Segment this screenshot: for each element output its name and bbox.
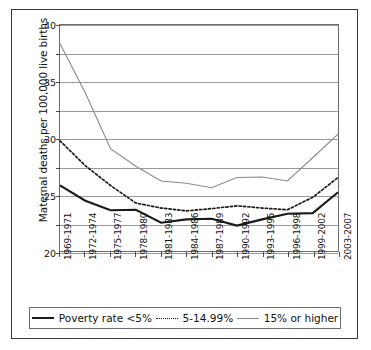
x-tick-mark xyxy=(59,252,60,257)
y-tick-label: 20 xyxy=(44,248,56,259)
legend-item-poverty-5-to-14: 5-14.99% xyxy=(156,312,234,324)
x-tick-mark xyxy=(135,252,136,257)
x-tick-label: 1975-1977 xyxy=(113,213,123,260)
legend-swatch-dotted-icon xyxy=(156,318,178,319)
x-tick-mark xyxy=(84,252,85,257)
x-tick-mark xyxy=(339,252,340,257)
legend-item-poverty-15-or-higher: 15% or higher xyxy=(237,312,338,324)
x-tick-label: 1984-1986 xyxy=(190,213,200,260)
y-tick-label: 25 xyxy=(44,191,56,202)
y-tick-label: 30 xyxy=(44,134,56,145)
legend-item-poverty-under-5: Poverty rate <5% xyxy=(32,312,152,324)
x-tick-mark xyxy=(288,252,289,257)
x-tick-label: 1990-1992 xyxy=(241,213,251,260)
series-line xyxy=(60,141,338,211)
x-tick-mark xyxy=(161,252,162,257)
x-tick-label: 1969-1971 xyxy=(63,213,73,260)
x-tick-label: 1993-1995 xyxy=(266,213,276,260)
legend-swatch-solid-thick-icon xyxy=(32,317,54,319)
x-tick-mark xyxy=(212,252,213,257)
x-tick-label: 1999-2002 xyxy=(317,213,327,260)
legend-label: Poverty rate <5% xyxy=(59,312,152,324)
series-line xyxy=(60,44,338,188)
x-tick-label: 1972-1974 xyxy=(88,213,98,260)
x-tick-label: 1981-1983 xyxy=(164,213,174,260)
y-tick-label: 35 xyxy=(44,77,56,88)
x-tick-mark xyxy=(263,252,264,257)
x-tick-mark xyxy=(314,252,315,257)
x-tick-mark xyxy=(237,252,238,257)
x-tick-label: 1996-1998 xyxy=(292,213,302,260)
legend-swatch-solid-thin-icon xyxy=(237,318,259,319)
y-tick-label: 40 xyxy=(44,20,56,31)
chart-legend: Poverty rate <5% 5-14.99% 15% or higher xyxy=(29,307,341,329)
x-tick-label: 1987-1989 xyxy=(215,213,225,260)
x-tick-label: 1978-1980 xyxy=(139,213,149,260)
x-tick-mark xyxy=(110,252,111,257)
plot-container: Maternal deaths per 100,000 live births … xyxy=(12,10,359,340)
legend-label: 5-14.99% xyxy=(183,312,234,324)
x-tick-mark xyxy=(186,252,187,257)
chart-figure: Maternal deaths per 100,000 live births … xyxy=(11,9,358,339)
x-tick-label: 2003-2007 xyxy=(343,213,353,260)
legend-label: 15% or higher xyxy=(264,312,338,324)
